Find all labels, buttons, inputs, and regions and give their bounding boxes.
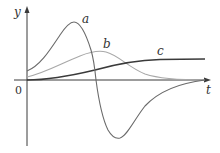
curve-b-label: b bbox=[103, 37, 111, 51]
origin-label: 0 bbox=[15, 84, 22, 97]
y-axis-label: y bbox=[13, 5, 21, 19]
curve-c-label: c bbox=[157, 44, 164, 58]
curve-c bbox=[27, 59, 205, 80]
curve-a-label: a bbox=[82, 12, 89, 26]
chart-svg: y t 0 a b c bbox=[0, 0, 220, 153]
curve-b bbox=[27, 51, 205, 80]
x-axis-label: t bbox=[206, 83, 211, 97]
y-axis-arrow-icon bbox=[25, 6, 30, 13]
chart-figure: y t 0 a b c bbox=[0, 0, 220, 153]
x-axis-arrow-icon bbox=[204, 78, 211, 83]
